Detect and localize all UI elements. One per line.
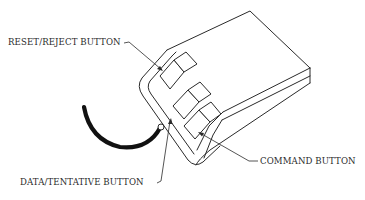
command-label: COMMAND BUTTON [260, 156, 356, 166]
reset-reject-label: RESET/REJECT BUTTON [8, 37, 121, 47]
mouse-body [139, 11, 310, 165]
mouse-diagram [0, 0, 365, 200]
mouse-cord [84, 107, 164, 147]
data-tentative-label: DATA/TENTATIVE BUTTON [20, 177, 144, 187]
